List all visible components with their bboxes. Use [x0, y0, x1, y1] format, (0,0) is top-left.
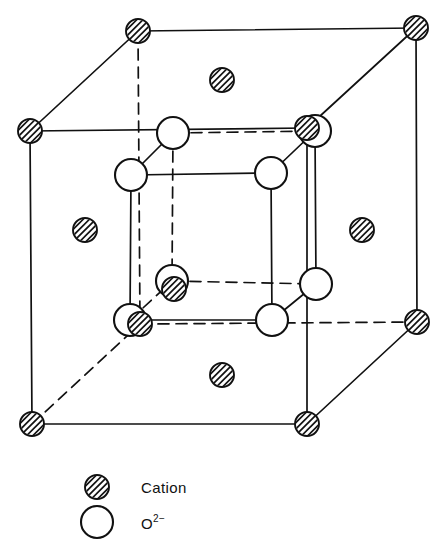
edge-cation-cube-solid: [416, 28, 417, 322]
edge-oxygen-cube-dashed: [172, 133, 173, 281]
crystal-structure-figure: CationO2−: [0, 0, 447, 556]
edge-oxygen-cube-solid: [130, 175, 131, 320]
legend-label-superscript: 2−: [153, 513, 165, 524]
legend-label-cation: Cation: [141, 479, 187, 496]
atom-oxygen-o-top-back-left: [157, 117, 189, 149]
atom-oxygen-o-top-front-right: [255, 157, 287, 189]
edge-oxygen-cube-solid: [271, 173, 272, 320]
edge-oxygen-cube-solid: [315, 131, 316, 284]
atom-oxygen-o-bot-back-right: [300, 268, 332, 300]
atom-oxygen-o-bot-front-right: [256, 304, 288, 336]
legend-marker-oxygen: [81, 506, 113, 538]
atom-oxygen-o-top-front-left: [115, 159, 147, 191]
